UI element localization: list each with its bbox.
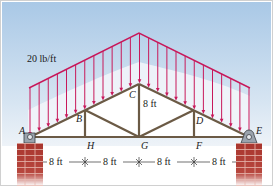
joint-label-A: A bbox=[18, 125, 26, 136]
height-label: 8 ft bbox=[143, 98, 157, 109]
dimension-label-AH: 8 ft bbox=[49, 156, 63, 167]
truss-diagram: 20 lb/ft 8 ft A B C D E F G H 8 ft 8 ft … bbox=[0, 0, 273, 186]
dimension-label-FE: 8 ft bbox=[212, 156, 226, 167]
truss-figure: 20 lb/ft 8 ft A B C D E F G H 8 ft 8 ft … bbox=[0, 0, 273, 186]
joint-label-F: F bbox=[195, 140, 203, 151]
dimension-label-GF: 8 ft bbox=[157, 156, 171, 167]
load-label: 20 lb/ft bbox=[27, 53, 56, 64]
dimension-line bbox=[43, 157, 236, 167]
joint-label-D: D bbox=[195, 115, 204, 126]
joint-label-G: G bbox=[141, 140, 148, 151]
joint-label-E: E bbox=[255, 125, 262, 136]
joint-label-C: C bbox=[129, 89, 136, 100]
joint-label-H: H bbox=[86, 140, 95, 151]
joint-label-B: B bbox=[76, 113, 82, 124]
dimension-label-HG: 8 ft bbox=[103, 156, 117, 167]
